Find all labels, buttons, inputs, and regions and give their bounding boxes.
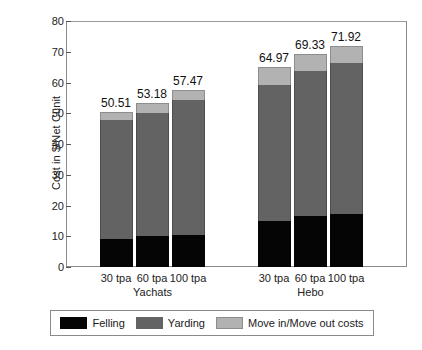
bar-segment-felling — [294, 216, 327, 267]
y-axis-tick-label: 60 — [0, 77, 64, 89]
bar-segment-move-in-out — [294, 54, 327, 71]
bar-segment-yarding — [330, 63, 363, 213]
bars-layer: 50.5153.1857.4764.9769.3371.92 — [66, 21, 407, 267]
bar-stack — [294, 54, 327, 267]
x-axis-group-label: Hebo — [251, 286, 371, 298]
bar-total-label: 64.97 — [259, 51, 289, 65]
yarding-swatch — [136, 317, 163, 329]
y-axis-tick-label: 10 — [0, 230, 64, 242]
move-swatch — [216, 317, 243, 329]
felling-swatch — [60, 317, 87, 329]
legend-item: Yarding — [136, 317, 205, 329]
bar-segment-move-in-out — [258, 67, 291, 85]
bar-segment-felling — [100, 239, 133, 267]
y-axis-tick-label: 40 — [0, 138, 64, 150]
bar-stack — [100, 112, 133, 267]
bar-segment-move-in-out — [100, 112, 133, 120]
x-axis-category-label: 100 tpa — [322, 272, 370, 284]
bar-segment-yarding — [172, 100, 205, 235]
bar-segment-felling — [172, 235, 205, 267]
bar-total-label: 71.92 — [331, 30, 361, 44]
y-axis-tick-label: 20 — [0, 200, 64, 212]
bar-stack — [258, 67, 291, 267]
bar-total-label: 69.33 — [295, 38, 325, 52]
bar-segment-move-in-out — [136, 103, 169, 112]
y-axis-tick-label: 30 — [0, 169, 64, 181]
legend-label: Felling — [92, 317, 124, 329]
legend-label: Yarding — [168, 317, 205, 329]
y-axis-tick-label: 0 — [0, 261, 64, 273]
bar-total-label: 53.18 — [137, 87, 167, 101]
stacked-bar-chart: Cost in $/Net Cunit 80706050403020100 50… — [0, 0, 422, 350]
y-axis-tick-label: 80 — [0, 15, 64, 27]
y-axis-tick-label: 70 — [0, 46, 64, 58]
bar-segment-yarding — [294, 71, 327, 216]
legend-item: Felling — [60, 317, 124, 329]
bar-stack — [136, 103, 169, 267]
x-axis-group-label: Yachats — [93, 286, 213, 298]
bar-segment-felling — [330, 214, 363, 267]
bar-segment-felling — [258, 221, 291, 267]
x-axis-category-label: 100 tpa — [164, 272, 212, 284]
bar-total-label: 50.51 — [101, 96, 131, 110]
chart-legend: FellingYardingMove in/Move out costs — [50, 310, 374, 336]
bar-segment-felling — [136, 236, 169, 267]
bar-segment-yarding — [136, 113, 169, 237]
y-axis-tick-mark — [66, 267, 71, 268]
bar-segment-yarding — [100, 120, 133, 239]
bar-segment-move-in-out — [330, 46, 363, 64]
bar-segment-yarding — [258, 85, 291, 221]
y-axis-tick-label: 50 — [0, 107, 64, 119]
bar-total-label: 57.47 — [173, 74, 203, 88]
bar-stack — [330, 46, 363, 267]
legend-label: Move in/Move out costs — [248, 317, 364, 329]
legend-item: Move in/Move out costs — [216, 317, 364, 329]
bar-stack — [172, 90, 205, 267]
bar-segment-move-in-out — [172, 90, 205, 100]
